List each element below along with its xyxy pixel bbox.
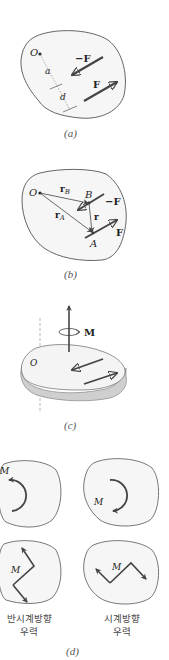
- caption-b: (b): [64, 268, 77, 280]
- panel-c: O M: [21, 306, 127, 412]
- body-ccw-zigzag: [0, 541, 61, 604]
- ccw-couple-label: 반시계방향 우력: [0, 612, 64, 638]
- neg-force-label: −F: [105, 196, 120, 207]
- point-b-label: B: [84, 189, 92, 200]
- origin-label: O: [29, 187, 37, 198]
- caption-d: (d): [66, 645, 79, 657]
- moment-label: M: [84, 327, 95, 338]
- panel-a: O −F F a d: [21, 31, 125, 119]
- r-label: r: [94, 212, 99, 222]
- moment-label-1: M: [0, 466, 10, 476]
- caption-a: (a): [64, 127, 77, 139]
- ccw-label-line1: 반시계방향: [0, 612, 64, 625]
- neg-force-label: −F: [75, 53, 90, 64]
- rigid-body-outline: [22, 169, 126, 260]
- point-a-label: A: [89, 238, 97, 249]
- panel-d: M M M M: [0, 459, 159, 604]
- force-label: F: [93, 79, 100, 90]
- panel-b: O rB rA r B A −F F: [22, 169, 126, 260]
- origin-label: O: [30, 358, 38, 368]
- couple-diagram: O −F F a d O rB rA r B A −F F: [0, 0, 169, 660]
- ccw-label-line2: 우력: [0, 625, 64, 638]
- origin-label: O: [30, 47, 38, 58]
- cw-label-line1: 시계방향: [87, 612, 157, 625]
- moment-label-4: M: [111, 562, 122, 572]
- distance-a-label: a: [45, 66, 50, 76]
- cw-label-line2: 우력: [87, 625, 157, 638]
- caption-c: (c): [64, 419, 76, 431]
- body-cw-curved: [84, 459, 159, 526]
- moment-label-3: M: [10, 565, 21, 575]
- distance-d-label: d: [60, 92, 66, 102]
- cw-couple-label: 시계방향 우력: [87, 612, 157, 638]
- force-label: F: [116, 227, 123, 238]
- moment-label-2: M: [93, 497, 104, 507]
